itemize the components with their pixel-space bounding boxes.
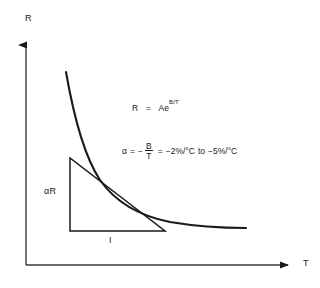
alpha-r-label: αR — [44, 186, 56, 196]
tangent-triangle — [70, 158, 165, 231]
alpha-coefficient-equation: α = − B T = −2%/°C to −5%/°C — [122, 142, 237, 160]
b-over-t-fraction: B T — [145, 142, 153, 160]
fraction-denominator: T — [145, 152, 152, 160]
alpha-equals-first: = — [130, 147, 135, 156]
thermistor-resistance-temperature-figure: R T αR I R = AeB/T α = − B T = −2%/°C to… — [0, 0, 320, 288]
alpha-symbol: α — [122, 147, 127, 156]
arrhenius-coefficient: Ae — [159, 104, 169, 113]
y-axis-label: R — [25, 13, 32, 23]
arrhenius-lhs: R — [132, 104, 138, 113]
arrhenius-exponent: B/T — [169, 98, 179, 105]
alpha-minus-sign: − — [138, 147, 143, 156]
alpha-range-connector: to — [198, 147, 205, 156]
arrhenius-equation: R = AeB/T — [132, 102, 179, 112]
fraction-numerator: B — [145, 142, 153, 150]
x-axis-label: T — [303, 258, 309, 268]
alpha-value-low: −2%/°C — [166, 147, 195, 156]
alpha-equals-second: = — [158, 147, 163, 156]
alpha-value-high: −5%/°C — [208, 147, 237, 156]
unit-interval-label: I — [109, 235, 112, 245]
arrhenius-equals: = — [146, 104, 151, 113]
